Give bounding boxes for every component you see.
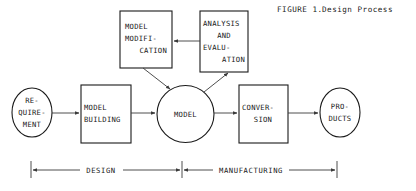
node-products-ellipse xyxy=(320,88,360,137)
node-model-modification-line-2: MODIFI- xyxy=(125,34,157,43)
figure-caption-label: FIGURE 1. xyxy=(277,5,323,14)
node-model-building-line-2: BUILDING xyxy=(84,115,121,124)
node-requirement-line-1: RE- xyxy=(25,96,39,105)
span-label-manufacturing: MANUFACTURING xyxy=(219,166,283,175)
span-label-design: DESIGN xyxy=(86,166,116,175)
node-requirement-line-2: QUIRE- xyxy=(18,108,45,117)
node-model-modification-line-1: MODEL xyxy=(125,22,148,31)
node-analysis-line-2: AND xyxy=(217,31,231,40)
node-analysis-line-3: EVALU- xyxy=(203,43,230,52)
node-products-line-1: PRO- xyxy=(331,102,349,111)
node-products-line-2: DUCTS xyxy=(329,114,352,123)
node-analysis-line-4: ATION xyxy=(222,55,245,64)
node-model-building-box xyxy=(81,85,131,143)
node-conversion-line-2: SION xyxy=(254,115,272,124)
node-conversion-box xyxy=(239,85,288,143)
connector-model-modification-to-model xyxy=(143,68,170,89)
connector-model-to-analysis xyxy=(204,73,228,92)
node-requirement-line-3: MENT xyxy=(23,120,42,129)
figure-canvas: FIGURE 1. Design Process MODEL MODIFI- C… xyxy=(0,0,416,191)
node-model-label: MODEL xyxy=(174,110,197,119)
node-model-building-line-1: MODEL xyxy=(84,103,107,112)
node-conversion-line-1: CONVER- xyxy=(242,103,274,112)
design-process-diagram: FIGURE 1. Design Process MODEL MODIFI- C… xyxy=(0,0,416,191)
node-analysis-line-1: ANALYSIS xyxy=(203,19,240,28)
figure-caption-title: Design Process xyxy=(322,5,393,14)
node-model-modification-line-3: CATION xyxy=(140,46,167,55)
